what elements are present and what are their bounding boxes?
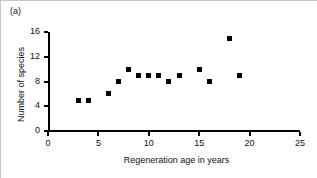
data-point <box>156 73 161 78</box>
y-tick-8 <box>44 81 48 83</box>
y-tick-label-16: 16 <box>24 27 40 36</box>
x-tick-label-25: 25 <box>290 139 310 148</box>
scatter-plot: 0481216 0510152025 Number of species Reg… <box>0 0 317 178</box>
y-tick-label-0: 0 <box>24 126 40 135</box>
x-tick-15 <box>198 132 200 136</box>
x-tick-20 <box>249 132 251 136</box>
x-tick-25 <box>299 132 301 136</box>
y-tick-label-12: 12 <box>24 52 40 61</box>
x-tick-10 <box>148 132 150 136</box>
figure-panel: (a) 0481216 0510152025 Number of species… <box>0 0 317 178</box>
y-tick-label-8: 8 <box>24 77 40 86</box>
data-point <box>197 67 202 72</box>
data-point <box>177 73 182 78</box>
x-tick-5 <box>97 132 99 136</box>
y-axis-line <box>48 32 50 132</box>
data-point <box>166 79 171 84</box>
data-point <box>207 79 212 84</box>
x-tick-label-10: 10 <box>139 139 159 148</box>
y-tick-16 <box>44 31 48 33</box>
y-axis-title: Number of species <box>16 47 26 122</box>
data-point <box>76 98 81 103</box>
x-tick-label-0: 0 <box>38 139 58 148</box>
x-tick-label-15: 15 <box>189 139 209 148</box>
data-point <box>86 98 91 103</box>
x-tick-label-20: 20 <box>240 139 260 148</box>
x-axis-title: Regeneration age in years <box>18 155 317 165</box>
data-point <box>136 73 141 78</box>
data-point <box>227 36 232 41</box>
y-tick-4 <box>44 105 48 107</box>
y-tick-12 <box>44 56 48 58</box>
data-point <box>146 73 151 78</box>
x-tick-label-5: 5 <box>88 139 108 148</box>
y-tick-label-4: 4 <box>24 101 40 110</box>
data-point <box>116 79 121 84</box>
data-point <box>106 91 111 96</box>
x-tick-0 <box>47 132 49 136</box>
x-axis-line <box>48 130 300 132</box>
data-point <box>126 67 131 72</box>
data-point <box>237 73 242 78</box>
